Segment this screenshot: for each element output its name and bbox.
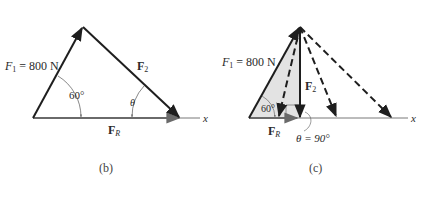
- panel-c-caption: (c): [309, 161, 322, 175]
- theta-leader-line: [304, 112, 311, 131]
- f2-label: F2: [305, 79, 316, 94]
- f1-label: F1 = 800 N: [221, 55, 276, 70]
- x-axis-label: x: [410, 112, 416, 124]
- panel-c: x 60° θ = 90° F1 = 800 N F2 FR (c): [221, 26, 416, 175]
- f1-label: F1 = 800 N: [4, 59, 59, 74]
- force-f1-arrow: [33, 28, 82, 118]
- theta-90-label: θ = 90°: [296, 132, 330, 144]
- angle-60-label: 60°: [69, 89, 84, 101]
- f2-label: F2: [137, 59, 148, 74]
- fr-label: FR: [268, 124, 280, 139]
- panel-b-caption: (b): [99, 161, 113, 175]
- dashed-f2-option-2: [300, 27, 336, 116]
- x-axis-label: x: [202, 112, 208, 124]
- fr-label: FR: [108, 123, 120, 138]
- force-diagram: x 60° θ F1 = 800 N F2 FR (b) x: [0, 0, 431, 214]
- dashed-f2-option-3: [300, 27, 391, 117]
- angle-theta-label: θ: [130, 97, 135, 108]
- panel-b: x 60° θ F1 = 800 N F2 FR (b): [4, 27, 208, 175]
- angle-60-label: 60°: [261, 103, 275, 114]
